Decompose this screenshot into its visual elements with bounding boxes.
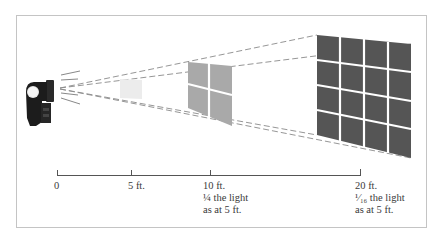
- flash-unit-icon: [26, 80, 54, 126]
- note-10ft-rest: the light: [211, 192, 248, 203]
- fraction-sixteenth: ¹⁄₁₆: [355, 192, 368, 203]
- note-10ft-line1: ¼ the light: [203, 192, 248, 203]
- note-20ft-line2: as at 5 ft.: [355, 204, 394, 215]
- target-5ft-square: [120, 79, 142, 99]
- note-20ft-rest: the light: [367, 192, 404, 203]
- fraction-quarter: ¼: [203, 192, 211, 203]
- tick-label-20ft: 20 ft.: [355, 180, 377, 191]
- tick-label-0: 0: [54, 180, 59, 191]
- note-20ft-line1: ¹⁄₁₆ the light: [355, 192, 405, 203]
- tick-label-10ft: 10 ft.: [203, 180, 225, 191]
- tick-label-5ft: 5 ft.: [128, 180, 145, 191]
- note-10ft-line2: as at 5 ft.: [203, 204, 242, 215]
- inverse-square-diagram: 0 5 ft. 10 ft. ¼ the light as at 5 ft. 2…: [0, 0, 442, 243]
